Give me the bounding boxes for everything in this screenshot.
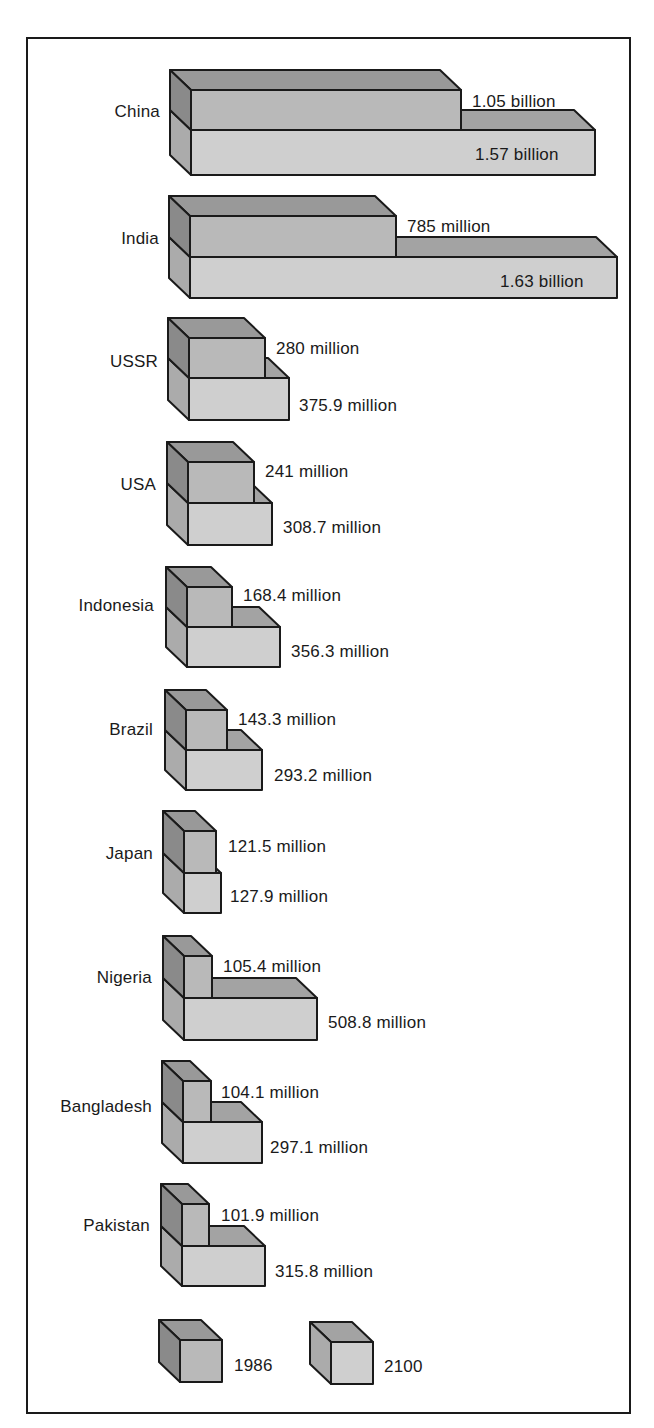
bar-1986-front-face (184, 956, 212, 998)
bar-1986-front-face (188, 462, 254, 503)
value-label-1986: 785 million (407, 218, 490, 235)
bar-2100-front-face (184, 873, 221, 913)
country-label: China (115, 103, 160, 120)
bar-1986-front-face (189, 338, 265, 378)
country-label: India (121, 230, 159, 247)
value-label-1986: 280 million (276, 340, 359, 357)
bar-1986-top-face (169, 196, 396, 216)
bar-1986-front-face (186, 710, 227, 750)
value-label-1986: 121.5 million (228, 838, 326, 855)
value-label-2100: 315.8 million (275, 1263, 373, 1280)
bar-1986-front-face (190, 216, 396, 257)
country-label: Brazil (109, 721, 153, 738)
bar-1986-top-face (170, 70, 461, 90)
bar-1986-front-face (187, 587, 232, 627)
value-label-2100: 508.8 million (328, 1014, 426, 1031)
legend-label-1986: 1986 (234, 1357, 273, 1374)
bar-1986-front-face (191, 90, 461, 130)
legend-cube-1-front-face (331, 1342, 373, 1384)
country-label: Nigeria (97, 969, 152, 986)
country-label: Japan (106, 845, 153, 862)
value-label-2100: 375.9 million (299, 397, 397, 414)
bar-2100-front-face (186, 750, 262, 790)
country-label: Bangladesh (60, 1098, 152, 1115)
bar-2100-front-face (188, 503, 272, 545)
value-label-1986: 101.9 million (221, 1207, 319, 1224)
bar-2100-front-face (187, 627, 280, 667)
bar-group-bangladesh (162, 1061, 262, 1163)
value-label-2100: 308.7 million (283, 519, 381, 536)
value-label-2100: 1.63 billion (500, 273, 584, 290)
bar-1986-front-face (182, 1204, 209, 1246)
value-label-2100: 356.3 million (291, 643, 389, 660)
country-label: Indonesia (78, 597, 154, 614)
value-label-1986: 104.1 million (221, 1084, 319, 1101)
bar-1986-front-face (184, 831, 216, 873)
value-label-2100: 127.9 million (230, 888, 328, 905)
value-label-1986: 241 million (265, 463, 348, 480)
bar-group-pakistan (161, 1184, 265, 1286)
bar-group-brazil (165, 690, 262, 790)
legend-cube-0-front-face (180, 1340, 222, 1382)
value-label-1986: 1.05 billion (472, 93, 556, 110)
bar-2100-front-face (183, 1122, 262, 1163)
value-label-2100: 293.2 million (274, 767, 372, 784)
country-label: USSR (110, 353, 158, 370)
light-cube-icon (310, 1322, 373, 1384)
bar-2100-front-face (182, 1246, 265, 1286)
bar-group-usa (167, 442, 272, 545)
dark-cube-icon (159, 1320, 222, 1382)
bar-group-indonesia (166, 567, 280, 667)
value-label-1986: 105.4 million (223, 958, 321, 975)
bar-group-ussr (168, 318, 289, 420)
country-label: Pakistan (83, 1217, 150, 1234)
value-label-1986: 168.4 million (243, 587, 341, 604)
bar-group-japan (163, 811, 221, 913)
value-label-2100: 1.57 billion (475, 146, 559, 163)
country-label: USA (120, 476, 156, 493)
legend-label-2100: 2100 (384, 1358, 423, 1375)
value-label-2100: 297.1 million (270, 1139, 368, 1156)
bar-1986-front-face (183, 1081, 211, 1122)
bar-2100-front-face (184, 998, 317, 1040)
bar-group-nigeria (163, 936, 317, 1040)
bar-2100-front-face (189, 378, 289, 420)
value-label-1986: 143.3 million (238, 711, 336, 728)
